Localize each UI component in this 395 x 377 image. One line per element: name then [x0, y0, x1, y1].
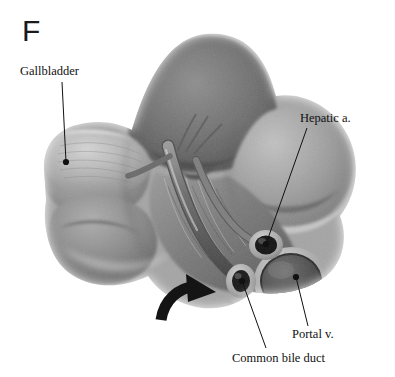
- label-gallbladder: Gallbladder: [20, 65, 79, 78]
- label-portal-vein: Portal v.: [292, 328, 334, 341]
- figure-panel: F Gallbladder Hepatic a. Portal v. Commo…: [0, 0, 395, 377]
- label-common-bile-duct: Common bile duct: [232, 352, 325, 365]
- panel-letter: F: [22, 16, 40, 46]
- anatomical-illustration: [0, 0, 395, 377]
- label-hepatic-artery: Hepatic a.: [300, 112, 351, 125]
